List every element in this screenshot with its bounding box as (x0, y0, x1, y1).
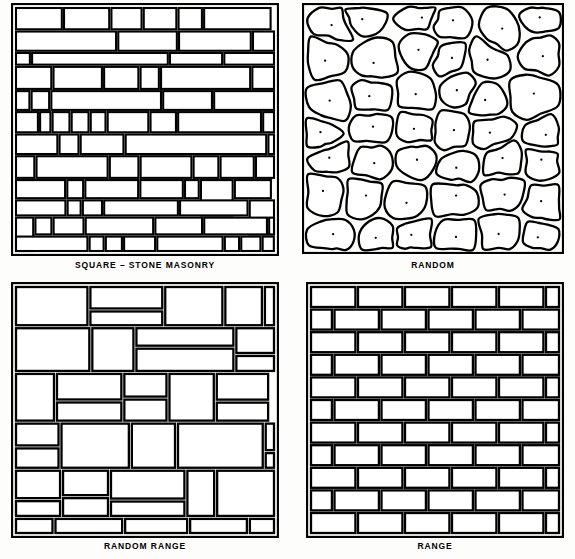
stone-block (476, 310, 520, 330)
stone-block (53, 112, 70, 132)
range-running-bond-drawing (306, 282, 564, 538)
stone-block (429, 445, 473, 465)
stone-block (499, 423, 543, 443)
rubble-stone (523, 221, 560, 250)
stone-block (429, 310, 473, 330)
rubble-stone (435, 110, 470, 150)
stone-block (187, 471, 214, 516)
stone-block (236, 328, 274, 353)
stone-peck-dot (489, 132, 491, 134)
stone-peck-dot (540, 200, 542, 202)
stone-block (217, 374, 268, 400)
stone-block (311, 423, 355, 443)
stone-block (157, 237, 222, 251)
panel-range (306, 282, 564, 538)
stone-block (476, 490, 520, 510)
masonry-pattern-plate: SQUARE – STONE MASONRY RANDOM RANDOM RAN… (0, 0, 575, 559)
stone-peck-dot (405, 202, 407, 204)
stone-block (452, 423, 496, 443)
stone-block (546, 377, 559, 397)
stone-block (178, 424, 263, 468)
stone-block (57, 374, 121, 400)
stone-block (269, 218, 274, 235)
stone-block (37, 156, 108, 178)
stone-block (16, 424, 59, 446)
stone-block (429, 355, 473, 375)
stone-block (358, 332, 402, 352)
stone-block (111, 502, 184, 516)
stone-block (91, 112, 106, 132)
stone-peck-dot (361, 18, 363, 20)
stone-block (72, 112, 89, 132)
stone-block (53, 67, 101, 89)
stone-block (204, 8, 270, 29)
rubble-stone (431, 183, 479, 216)
stone-block (235, 180, 271, 198)
stone-peck-dot (540, 158, 542, 160)
stone-peck-dot (372, 126, 374, 128)
stone-block (224, 53, 274, 65)
stone-peck-dot (421, 16, 423, 18)
stone-peck-dot (498, 233, 500, 235)
stone-block (268, 135, 274, 155)
stone-peck-dot (452, 19, 454, 21)
rubble-stone (396, 112, 433, 142)
stone-block (225, 237, 239, 251)
stone-block (311, 355, 332, 375)
stone-block (16, 328, 89, 371)
stone-block (546, 513, 559, 533)
stone-block (55, 519, 122, 533)
stone-block (141, 156, 192, 178)
stone-block (108, 112, 149, 132)
stone-block (546, 468, 559, 488)
stone-block (16, 448, 59, 467)
stone-block (32, 53, 168, 65)
caption-random-range: RANDOM RANGE (11, 542, 279, 551)
stone-block (64, 8, 109, 29)
stone-block (405, 377, 449, 397)
stone-peck-dot (415, 93, 417, 95)
stone-block (452, 513, 496, 533)
stone-block (90, 311, 162, 325)
stone-block (382, 310, 426, 330)
stone-block (16, 471, 60, 498)
stone-block (16, 32, 116, 51)
stone-block (124, 374, 166, 397)
stone-block (83, 200, 102, 215)
stone-block (358, 377, 402, 397)
stone-peck-dot (484, 99, 486, 101)
stone-block (141, 67, 159, 89)
stone-block (429, 490, 473, 510)
stone-block (335, 310, 379, 330)
stone-block (499, 287, 543, 307)
stone-block (67, 180, 83, 198)
stone-block (335, 355, 379, 375)
stone-peck-dot (453, 129, 455, 131)
stone-block (335, 445, 379, 465)
stone-block (136, 328, 233, 345)
stone-peck-dot (455, 194, 457, 196)
stone-block (523, 400, 560, 420)
stone-block (405, 423, 449, 443)
rubble-stone (525, 149, 559, 181)
stone-block (263, 237, 274, 251)
stone-block (499, 377, 543, 397)
rubble-stone (478, 214, 520, 250)
stone-block (63, 498, 108, 516)
stone-peck-dot (455, 167, 457, 169)
stone-block (63, 471, 108, 495)
rubble-stone (434, 7, 473, 39)
caption-random: RANDOM (302, 261, 564, 270)
stone-block (165, 287, 222, 325)
random-range-drawing (11, 282, 279, 538)
stone-block (405, 513, 449, 533)
stone-peck-dot (365, 194, 367, 196)
stone-block (335, 400, 379, 420)
stone-peck-dot (329, 99, 331, 101)
stone-peck-dot (410, 234, 412, 236)
stone-block (452, 468, 496, 488)
stone-block (382, 445, 426, 465)
stone-block (452, 287, 496, 307)
stone-block (252, 67, 274, 89)
stone-block (546, 423, 559, 443)
